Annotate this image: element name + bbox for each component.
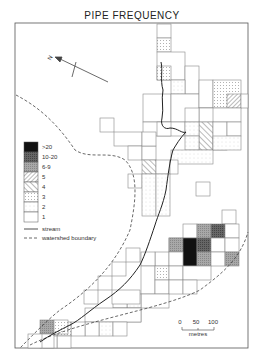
legend-label-4: 4 bbox=[42, 184, 46, 190]
scale-tick-0: 0 bbox=[178, 319, 182, 325]
legend-swatch-5 bbox=[24, 172, 38, 182]
legend-swatch-3 bbox=[24, 192, 38, 202]
legend-label-6-9: 6-9 bbox=[42, 164, 51, 170]
legend-label-5: 5 bbox=[42, 174, 46, 180]
legend-label-2: 2 bbox=[42, 204, 46, 210]
scale-bar: 0 50 100 metres bbox=[178, 319, 218, 337]
legend-swatch-2 bbox=[24, 202, 38, 212]
north-label: N bbox=[46, 54, 53, 61]
legend-label-10-20: 10-20 bbox=[42, 154, 58, 160]
legend-swatch-6-9 bbox=[24, 162, 38, 172]
legend-label-boundary: watershed boundary bbox=[41, 235, 96, 241]
legend-swatch-4 bbox=[24, 182, 38, 192]
legend-swatch-10-20 bbox=[24, 152, 38, 162]
scale-tick-50: 50 bbox=[193, 319, 200, 325]
scale-unit: metres bbox=[189, 331, 207, 337]
legend-label-3: 3 bbox=[42, 194, 46, 200]
legend-label-gt20: >20 bbox=[42, 144, 53, 150]
legend-swatch-gt20 bbox=[24, 142, 38, 152]
north-arrow-icon bbox=[55, 57, 108, 82]
pipe-frequency-map: N >20 10-20 6-9 5 4 3 2 1 stream watersh… bbox=[0, 0, 264, 359]
legend: >20 10-20 6-9 5 4 3 2 1 stream watershed… bbox=[24, 142, 96, 241]
legend-label-1: 1 bbox=[42, 214, 46, 220]
legend-swatch-1 bbox=[24, 212, 38, 222]
legend-label-stream: stream bbox=[42, 226, 60, 232]
grid-cells bbox=[28, 24, 248, 348]
scale-tick-100: 100 bbox=[208, 319, 219, 325]
